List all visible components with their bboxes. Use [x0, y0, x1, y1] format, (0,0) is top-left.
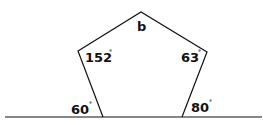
diagram-canvas: b 152 ° 63 ° 60 ° 80 ° [0, 0, 263, 125]
angle-label-b: b [137, 19, 146, 34]
angle-label-upper-right: 63 [181, 50, 199, 65]
degree-symbol: ° [89, 100, 92, 107]
pentagon-diagram: b 152 ° 63 ° 60 ° 80 ° [0, 0, 263, 125]
angle-label-bottom-right: 80 [191, 100, 209, 115]
degree-symbol: ° [198, 48, 201, 55]
degree-symbol: ° [209, 98, 212, 105]
angle-label-bottom-left: 60 [71, 102, 89, 117]
degree-symbol: ° [109, 48, 112, 55]
